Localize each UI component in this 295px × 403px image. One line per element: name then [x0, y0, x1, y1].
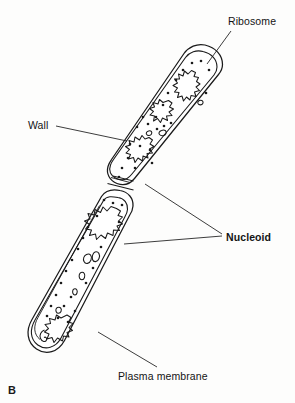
ribosome-dot — [63, 305, 66, 308]
ribosome-dot — [57, 317, 60, 320]
upper-daughter-cell — [107, 45, 222, 185]
ribosome-dot — [121, 167, 124, 170]
ribosome-dot — [175, 79, 178, 82]
ribosome-dot — [147, 123, 150, 126]
ribosome-dot — [170, 122, 173, 125]
label-nucleoid: Nucleoid — [226, 232, 271, 243]
ribosome-dot — [71, 259, 74, 262]
cell-wall-outline-upper — [107, 45, 222, 185]
ribosome-dot — [82, 237, 85, 240]
ribosome-dot — [118, 176, 121, 179]
lower-daughter-cell — [28, 190, 133, 352]
ribosome-dot — [163, 125, 166, 128]
ribosome-dot — [191, 62, 194, 65]
ribosome-dot — [129, 143, 132, 146]
ribosome-dot — [151, 162, 154, 165]
ribosome-dot — [121, 204, 124, 207]
leader-line-plasma-membrane — [98, 332, 157, 367]
ribosome-dot — [142, 116, 145, 119]
leader-line-nucleoid-lower — [124, 236, 222, 244]
figure-panel: Ribosome Wall Nucleoid Plasma membrane B — [0, 0, 295, 403]
leader-line-nucleoid-upper — [145, 184, 222, 234]
bacterial-cell-diagram — [0, 0, 295, 403]
ribosome-dot — [136, 126, 139, 129]
ribosome-dot — [205, 92, 208, 95]
ribosome-dot — [182, 69, 185, 72]
ribosome-dot — [118, 221, 121, 224]
ribosome-dot — [155, 116, 158, 119]
ribosome-dot — [112, 202, 115, 205]
ribosome-dot — [167, 92, 170, 95]
ribosome-dot — [200, 60, 203, 63]
ribosome-dot — [85, 282, 88, 285]
ribosome-dot — [46, 315, 49, 318]
panel-letter: B — [8, 384, 16, 396]
ribosome-dot — [87, 226, 90, 229]
ribosome-dot — [103, 199, 106, 202]
nucleoid-satellite-c — [198, 100, 203, 105]
ribosome-dot — [127, 157, 130, 160]
ribosome-dot — [149, 149, 152, 152]
ribosome-dot — [156, 128, 159, 131]
leader-line-wall — [56, 126, 127, 141]
ribosome-dot — [65, 270, 68, 273]
label-ribosome: Ribosome — [228, 16, 276, 27]
ribosome-dot — [139, 145, 142, 148]
ribosome-dot — [96, 215, 99, 218]
ribosome-dot — [208, 69, 211, 72]
ribosome-dot — [55, 294, 58, 297]
ribosome-dot — [50, 305, 53, 308]
ribosome-dot — [74, 310, 77, 313]
label-plasma-membrane: Plasma membrane — [118, 371, 208, 382]
ribosome-dot — [134, 167, 137, 170]
ribosome-dot — [70, 296, 73, 299]
ribosome-dot — [92, 267, 95, 270]
ribosome-dot — [162, 104, 165, 107]
cell-wall-outline-lower — [28, 190, 133, 352]
ribosome-dot — [67, 321, 70, 324]
ribosome-dot — [77, 248, 80, 251]
ribosome-dot — [60, 282, 63, 285]
label-wall: Wall — [28, 120, 48, 131]
ribosome-dot — [100, 246, 103, 249]
